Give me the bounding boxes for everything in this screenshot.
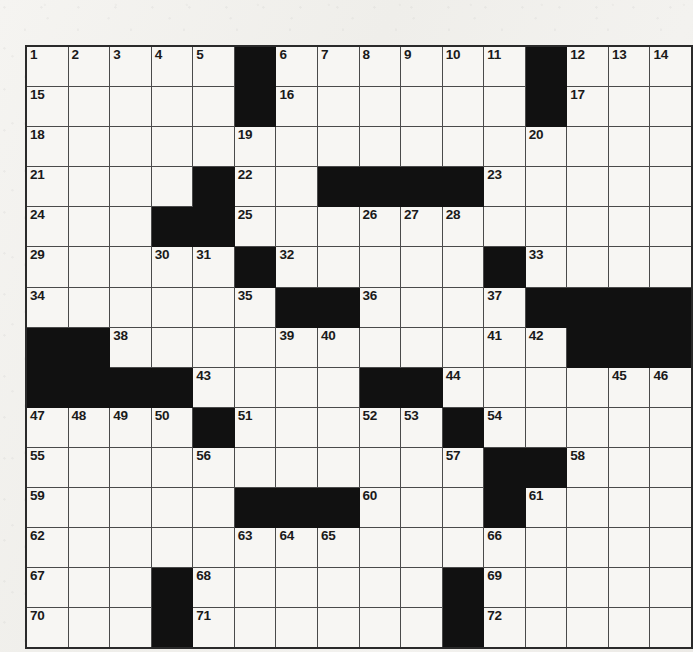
grid-cell-open[interactable]: 72 [484, 608, 526, 649]
grid-cell-open[interactable] [68, 167, 110, 207]
grid-cell-open[interactable] [442, 87, 484, 127]
grid-cell-open[interactable] [151, 287, 193, 327]
grid-cell-open[interactable] [567, 367, 609, 407]
grid-cell-open[interactable] [276, 568, 318, 608]
grid-cell-open[interactable]: 69 [484, 568, 526, 608]
grid-cell-open[interactable]: 70 [26, 608, 68, 649]
grid-cell-open[interactable] [359, 568, 401, 608]
grid-cell-open[interactable] [608, 528, 650, 568]
grid-cell-open[interactable] [567, 167, 609, 207]
grid-cell-open[interactable]: 11 [484, 46, 526, 87]
grid-cell-open[interactable]: 29 [26, 247, 68, 287]
grid-cell-open[interactable] [151, 528, 193, 568]
grid-cell-open[interactable] [567, 528, 609, 568]
grid-cell-open[interactable] [317, 367, 359, 407]
grid-cell-open[interactable] [608, 608, 650, 649]
grid-cell-open[interactable] [317, 608, 359, 649]
grid-cell-open[interactable] [650, 167, 692, 207]
grid-cell-open[interactable] [650, 608, 692, 649]
grid-cell-open[interactable] [608, 407, 650, 447]
grid-cell-open[interactable]: 3 [110, 46, 152, 87]
grid-cell-open[interactable] [110, 488, 152, 528]
grid-cell-open[interactable] [608, 207, 650, 247]
grid-cell-open[interactable] [68, 528, 110, 568]
grid-cell-open[interactable]: 47 [26, 407, 68, 447]
grid-cell-open[interactable]: 23 [484, 167, 526, 207]
grid-cell-open[interactable] [234, 327, 276, 367]
grid-cell-open[interactable] [68, 447, 110, 487]
grid-cell-open[interactable]: 8 [359, 46, 401, 87]
grid-cell-open[interactable]: 13 [608, 46, 650, 87]
grid-cell-open[interactable] [442, 247, 484, 287]
grid-cell-open[interactable] [68, 568, 110, 608]
grid-cell-open[interactable] [401, 528, 443, 568]
grid-cell-open[interactable] [193, 488, 235, 528]
grid-cell-open[interactable]: 59 [26, 488, 68, 528]
grid-cell-open[interactable]: 57 [442, 447, 484, 487]
grid-cell-open[interactable] [567, 608, 609, 649]
grid-cell-open[interactable] [193, 127, 235, 167]
grid-cell-open[interactable] [650, 87, 692, 127]
grid-cell-open[interactable] [110, 207, 152, 247]
grid-cell-open[interactable] [401, 608, 443, 649]
grid-cell-open[interactable]: 36 [359, 287, 401, 327]
grid-cell-open[interactable] [276, 407, 318, 447]
grid-cell-open[interactable] [151, 447, 193, 487]
grid-cell-open[interactable] [525, 528, 567, 568]
grid-cell-open[interactable]: 7 [317, 46, 359, 87]
grid-cell-open[interactable] [151, 167, 193, 207]
grid-cell-open[interactable]: 10 [442, 46, 484, 87]
grid-cell-open[interactable]: 6 [276, 46, 318, 87]
grid-cell-open[interactable] [525, 407, 567, 447]
grid-cell-open[interactable]: 66 [484, 528, 526, 568]
grid-cell-open[interactable]: 2 [68, 46, 110, 87]
grid-cell-open[interactable] [650, 568, 692, 608]
grid-cell-open[interactable]: 67 [26, 568, 68, 608]
grid-cell-open[interactable] [276, 167, 318, 207]
grid-cell-open[interactable] [68, 488, 110, 528]
grid-cell-open[interactable] [484, 87, 526, 127]
grid-cell-open[interactable]: 51 [234, 407, 276, 447]
grid-cell-open[interactable] [110, 447, 152, 487]
grid-cell-open[interactable] [317, 87, 359, 127]
grid-cell-open[interactable] [234, 367, 276, 407]
grid-cell-open[interactable]: 41 [484, 327, 526, 367]
grid-cell-open[interactable] [401, 488, 443, 528]
grid-cell-open[interactable]: 58 [567, 447, 609, 487]
grid-cell-open[interactable]: 24 [26, 207, 68, 247]
grid-cell-open[interactable]: 68 [193, 568, 235, 608]
grid-cell-open[interactable] [68, 287, 110, 327]
grid-cell-open[interactable] [359, 127, 401, 167]
grid-cell-open[interactable]: 1 [26, 46, 68, 87]
grid-cell-open[interactable] [442, 287, 484, 327]
grid-cell-open[interactable]: 35 [234, 287, 276, 327]
grid-cell-open[interactable]: 44 [442, 367, 484, 407]
grid-cell-open[interactable]: 54 [484, 407, 526, 447]
grid-cell-open[interactable]: 61 [525, 488, 567, 528]
grid-cell-open[interactable] [401, 247, 443, 287]
grid-cell-open[interactable] [110, 287, 152, 327]
grid-cell-open[interactable]: 63 [234, 528, 276, 568]
grid-cell-open[interactable]: 42 [525, 327, 567, 367]
grid-cell-open[interactable] [359, 87, 401, 127]
grid-cell-open[interactable]: 28 [442, 207, 484, 247]
grid-cell-open[interactable]: 38 [110, 327, 152, 367]
grid-cell-open[interactable] [525, 207, 567, 247]
grid-cell-open[interactable] [608, 488, 650, 528]
grid-cell-open[interactable] [317, 568, 359, 608]
grid-cell-open[interactable] [401, 568, 443, 608]
grid-cell-open[interactable]: 33 [525, 247, 567, 287]
grid-cell-open[interactable]: 64 [276, 528, 318, 568]
grid-cell-open[interactable]: 40 [317, 327, 359, 367]
grid-cell-open[interactable] [650, 247, 692, 287]
grid-cell-open[interactable]: 71 [193, 608, 235, 649]
grid-cell-open[interactable]: 21 [26, 167, 68, 207]
grid-cell-open[interactable] [151, 87, 193, 127]
grid-cell-open[interactable]: 55 [26, 447, 68, 487]
grid-cell-open[interactable] [650, 407, 692, 447]
grid-cell-open[interactable]: 16 [276, 87, 318, 127]
grid-cell-open[interactable] [193, 327, 235, 367]
grid-cell-open[interactable] [234, 608, 276, 649]
grid-cell-open[interactable] [525, 608, 567, 649]
grid-cell-open[interactable] [484, 207, 526, 247]
